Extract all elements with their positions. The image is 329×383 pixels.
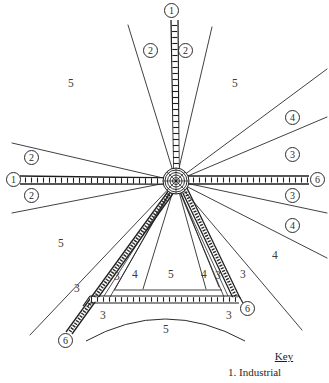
zone-label-5-upper-left: 5 (68, 78, 74, 90)
zone-label-3-below-left: 3 (100, 310, 106, 322)
sector-label-2-west-upper: 2 (24, 150, 39, 165)
terminus-southwest-marker[interactable]: 6 (58, 333, 73, 348)
zone-label-4-inner-right: 4 (201, 269, 207, 281)
zone-label-5-upper-right: 5 (232, 78, 238, 90)
central-hub (163, 168, 189, 194)
zone-label-3-below-right: 3 (226, 310, 232, 322)
sector-label-2-west-lower: 2 (24, 188, 39, 203)
zone-label-5-lower-left: 5 (58, 238, 64, 250)
terminus-southeast-marker[interactable]: 6 (240, 301, 255, 316)
zone-label-3-right-outer: 3 (240, 269, 246, 281)
terminus-north-marker[interactable]: 1 (164, 3, 179, 18)
sector-label-4-east-upper: 4 (285, 110, 300, 125)
sector-label-3-east-upper: 3 (285, 147, 300, 162)
land-use-diagram: 1 1 6 6 6 2 2 2 2 4 3 3 4 5 5 4 5 3 3 4 … (0, 0, 329, 383)
zone-label-4-lower-right-outer: 4 (272, 250, 278, 262)
key-title: Key (262, 350, 306, 362)
sector-label-2-north-west: 2 (143, 43, 158, 58)
sector-label-3-east-lower: 3 (285, 188, 300, 203)
sector-label-4-east-lower: 4 (285, 218, 300, 233)
zone-label-5-bottom-arc: 5 (163, 324, 169, 336)
key-entry-industrial: 1. Industrial (228, 366, 306, 378)
zone-label-3-inner-right: 3 (215, 270, 221, 282)
sector-label-2-north-east: 2 (178, 43, 193, 58)
zone-label-5-inner-center: 5 (168, 269, 174, 281)
zone-label-4-inner-left: 4 (132, 269, 138, 281)
terminus-east-marker[interactable]: 6 (310, 172, 325, 187)
zone-label-3-left-inner: 3 (114, 271, 120, 283)
key-legend: Key 1. Industrial (240, 350, 306, 378)
terminus-west-marker[interactable]: 1 (6, 172, 21, 187)
zone-label-3-left-outer: 3 (74, 283, 80, 295)
